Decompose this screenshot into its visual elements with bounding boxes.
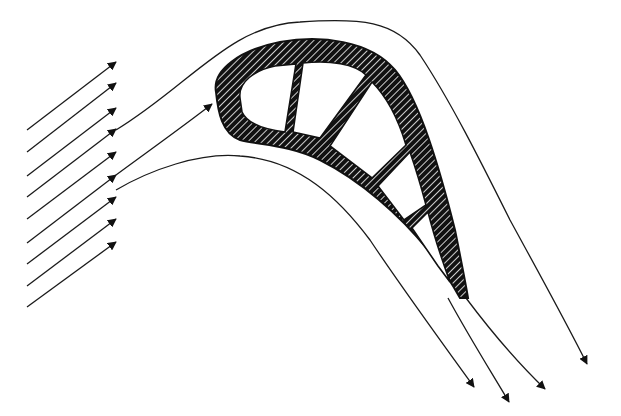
wake-streamline-right <box>466 298 545 389</box>
turbine-blade-flow-diagram <box>0 0 621 416</box>
blade-section <box>216 39 468 298</box>
inflow-arrows <box>27 62 116 307</box>
inflow-arrow <box>27 129 116 197</box>
stagnation-streamline <box>116 104 212 175</box>
inflow-arrow <box>27 62 116 130</box>
inflow-arrow <box>27 197 116 264</box>
